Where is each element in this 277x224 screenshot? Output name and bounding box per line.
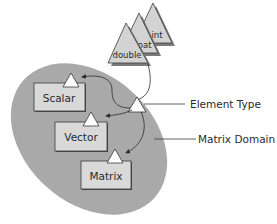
matrix-label: Matrix [89,170,122,182]
int-label: int [151,30,163,40]
element-type-label: Element Type [190,98,261,110]
scalar-label: Scalar [43,92,76,104]
matrix-domain-label: Matrix Domain [198,133,275,145]
matrix-domain-diagram: int float double Scalar Vector Matrix El… [0,0,277,224]
type-binding-line [137,64,150,100]
vector-label: Vector [64,131,98,143]
double-label: double [113,50,142,60]
